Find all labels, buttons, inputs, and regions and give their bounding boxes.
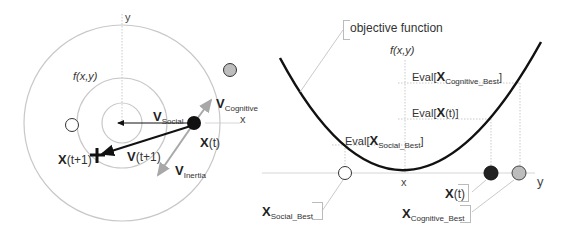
cognitive-best-point-1d xyxy=(512,166,526,180)
v-cognitive-label: VCognitive xyxy=(216,97,258,113)
social-callout-bracket xyxy=(312,202,323,220)
objective-curve xyxy=(280,42,541,170)
x-t1-label: X(t+1) xyxy=(58,153,92,166)
diagram-canvas xyxy=(0,0,563,235)
right-axis-y-label: y xyxy=(537,175,544,188)
left-axis-y-label: y xyxy=(125,12,131,23)
v-t1-label: V(t+1) xyxy=(127,150,161,163)
left-contour-plot xyxy=(24,14,240,221)
right-axis-x-label: x xyxy=(401,177,407,188)
cognitive-callout-label: XCognitive_Best xyxy=(402,207,464,223)
left-axis-x-label: x xyxy=(240,114,246,125)
eval-xt-label: Eval[X(t)] xyxy=(412,106,459,119)
current-particle-1d xyxy=(484,166,498,180)
cognitive-best-point xyxy=(224,64,237,77)
left-func-label: f(x,y) xyxy=(73,71,97,82)
right-func-label: f(x,y) xyxy=(390,45,414,56)
eval-cognitive-label: Eval[XCognitive_Best] xyxy=(412,70,502,86)
v-social-label: VSocial xyxy=(153,110,183,126)
x-t-label: X(t) xyxy=(200,136,220,149)
eval-social-label: Eval[XSocial_Best] xyxy=(345,134,423,150)
social-callout-label: XSocial_Best xyxy=(262,205,313,221)
v-inertia-label: VInertia xyxy=(175,164,206,180)
social-best-point xyxy=(66,119,79,132)
current-particle xyxy=(187,116,201,130)
objective-callout-bracket xyxy=(343,20,350,40)
next-position-cross xyxy=(90,148,105,163)
objective-function-label: objective function xyxy=(350,22,443,34)
social-best-point-1d xyxy=(339,167,352,180)
xt-callout-label: X(t) xyxy=(445,187,465,200)
